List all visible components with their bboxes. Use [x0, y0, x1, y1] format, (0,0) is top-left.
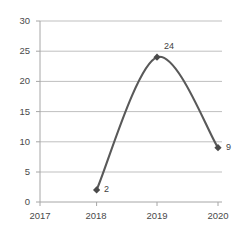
x-tick-label-2018: 2018 — [76, 210, 116, 221]
y-axis-ticks — [36, 21, 40, 202]
data-label-2019: 24 — [164, 41, 174, 51]
y-tick-label-5: 5 — [6, 166, 30, 177]
y-tick-label-10: 10 — [6, 136, 30, 147]
y-tick-label-20: 20 — [6, 75, 30, 86]
x-tick-label-2017: 2017 — [20, 210, 60, 221]
line-chart: 30 25 20 15 10 5 0 2017 2018 2019 2020 2… — [0, 0, 242, 234]
x-tick-label-2020: 2020 — [198, 210, 238, 221]
y-tick-label-30: 30 — [6, 15, 30, 26]
data-point-2018[interactable] — [93, 186, 100, 193]
data-label-2020: 9 — [226, 142, 231, 152]
x-axis-ticks — [40, 202, 218, 206]
series-line — [97, 57, 218, 190]
data-label-2018: 2 — [104, 184, 109, 194]
x-tick-label-2019: 2019 — [137, 210, 177, 221]
y-tick-label-25: 25 — [6, 45, 30, 56]
y-tick-label-15: 15 — [6, 106, 30, 117]
series-markers — [93, 54, 222, 194]
y-tick-label-0: 0 — [6, 196, 30, 207]
chart-plot-area — [0, 0, 242, 234]
